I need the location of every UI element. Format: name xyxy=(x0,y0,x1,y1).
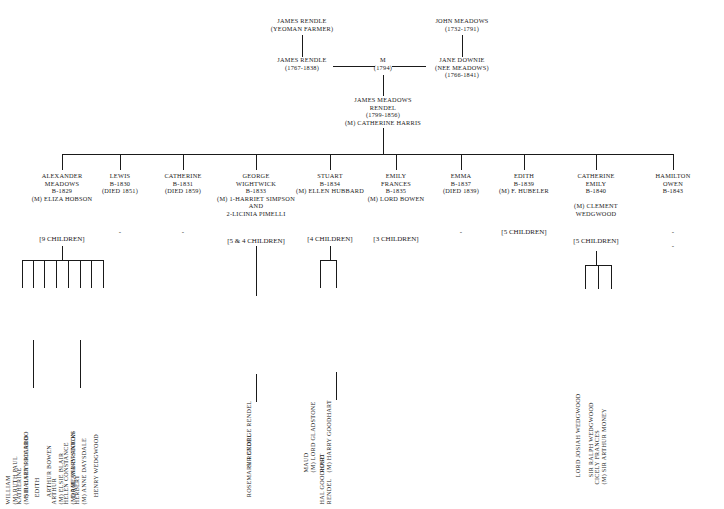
node-catherine-emily: CATHERINEEMILYB-1840 (M) CLEMENTWEDGWOOD xyxy=(574,172,618,218)
node-emma-line: EMMA xyxy=(443,172,479,180)
line-george-to-rosemary xyxy=(256,374,257,402)
node-stuart: STUARTB-1834(M) ELLEN HUBBARD xyxy=(296,172,364,195)
line-stuart-child-1 xyxy=(336,260,337,288)
node-jane-downie: JANE DOWNIE(NEE MEADOWS)(1766-1841) xyxy=(435,56,489,79)
sibling-bar-stuart xyxy=(320,260,336,261)
node-emily-frances-line: (M) LORD BOWEN xyxy=(368,195,425,203)
line-child-drop-2 xyxy=(183,154,184,170)
issue-label-catherine: - xyxy=(182,229,184,236)
node-stuart-line: (M) ELLEN HUBBARD xyxy=(296,187,364,195)
node-john-meadows-line: JOHN MEADOWS xyxy=(435,17,488,25)
line-marriage-right xyxy=(392,66,426,67)
node-catherine-line: CATHERINE xyxy=(164,172,201,180)
node-hamilton-owen-line: OWEN xyxy=(656,180,691,188)
line-marriage-left xyxy=(333,66,375,67)
line-stuart-child-0 xyxy=(320,260,321,288)
issue-label-catherine-emily: [5 CHILDREN] xyxy=(573,238,618,245)
line-wedgwood-down xyxy=(596,251,597,265)
node-james-rendle-yeoman-line: (YEOMAN FARMER) xyxy=(271,25,334,33)
line-child-drop-5 xyxy=(396,154,397,170)
line-wedgwood-child-2 xyxy=(611,265,612,289)
node-emma-line: (DIED 1839) xyxy=(443,187,479,195)
node-james-rendle-yeoman-line: JAMES RENDLE xyxy=(271,17,334,25)
node-emily-frances-line: FRANCES xyxy=(368,180,425,188)
node-alexander-meadows-line: B-1829 xyxy=(32,187,93,195)
node-emily-frances-line: B-1835 xyxy=(368,187,425,195)
node-hamilton-owen-line: B-1843 xyxy=(656,187,691,195)
label-dame-mary-stocks: DAME MARY STOCKS xyxy=(70,430,77,497)
node-george-wightwick-line: 2-LICINIA PIMELLI xyxy=(217,210,295,218)
node-catherine-emily-line: (M) CLEMENT xyxy=(574,202,618,210)
node-catherine-emily-line: WEDGWOOD xyxy=(574,210,618,218)
line-alexander-child-5 xyxy=(80,260,81,288)
issue-label-stuart: [4 CHILDREN] xyxy=(307,236,352,243)
node-lewis-line: B-1830 xyxy=(102,180,138,188)
line-george-down xyxy=(256,246,257,296)
label-edith-desc: EDITH xyxy=(34,477,41,497)
family-tree-diagram: JAMES RENDLE(YEOMAN FARMER)JOHN MEADOWS(… xyxy=(0,0,724,509)
label-cicely-frances-line: CICELY FRANCES xyxy=(593,408,600,484)
line-alexander-child-1 xyxy=(33,260,34,288)
line-alexander-child-7 xyxy=(103,260,104,288)
line-to-dame-mary-stocks xyxy=(80,340,81,388)
node-emily-frances-line: EMILY xyxy=(368,172,425,180)
line-jmr-down xyxy=(383,128,384,154)
node-jane-downie-line: (1766-1841) xyxy=(435,71,489,79)
node-catherine: CATHERINEB-1831(DIED 1859) xyxy=(164,172,201,195)
line-stuart-down xyxy=(330,246,331,260)
node-jane-downie-line: JANE DOWNIE xyxy=(435,56,489,64)
label-cicely-frances: CICELY FRANCES(M) SIR ARTHUR MONEY xyxy=(593,408,607,484)
line-alexander-child-3 xyxy=(56,260,57,288)
node-alexander-meadows-line: (M) ELIZA HOBSON xyxy=(32,195,93,203)
node-alexander-meadows-line: MEADOWS xyxy=(32,180,93,188)
node-alexander-meadows-line: ALEXANDER xyxy=(32,172,93,180)
node-edith-line: EDITH xyxy=(499,172,549,180)
label-helen-constance-line: HELEN CONSTANCE xyxy=(62,432,69,505)
node-john-meadows: JOHN MEADOWS(1732-1791) xyxy=(435,17,488,32)
label-katherine-line: KATHERINE xyxy=(15,435,22,504)
line-child-drop-7 xyxy=(524,154,525,170)
node-catherine-line: (DIED 1859) xyxy=(164,187,201,195)
issue-label-hamilton-owen: - xyxy=(672,229,674,236)
node-james-meadows-rendel: JAMES MEADOWSRENDEL(1799-1856)(M) CATHER… xyxy=(345,96,421,126)
node-james-meadows-rendel-line: JAMES MEADOWS xyxy=(345,96,421,104)
node-edith: EDITHB-1839(M) F. HUBELER xyxy=(499,172,549,195)
line-alexander-child-4 xyxy=(68,260,69,288)
line-child-drop-0 xyxy=(62,154,63,170)
label-arthur-elsie-line: ARTHUR xyxy=(50,453,57,505)
line-marriage-down xyxy=(383,75,384,96)
node-james-rendle-yeoman: JAMES RENDLE(YEOMAN FARMER) xyxy=(271,17,334,32)
node-george-wightwick-line: WIGHTWICK xyxy=(217,180,295,188)
label-edith-desc-line: EDITH xyxy=(34,477,41,497)
node-james-meadows-rendel-line: (1799-1856) xyxy=(345,111,421,119)
label-hal-goodhart-rendel-line: RENDEL xyxy=(326,453,333,504)
node-george-wightwick-line: (M) 1-HARRIET SIMPSON xyxy=(217,195,295,203)
issue-label-alexander-meadows: [9 CHILDREN] xyxy=(39,236,84,243)
node-stuart-line: STUART xyxy=(296,172,364,180)
line-yeoman-to-james xyxy=(302,35,303,57)
line-alexander-child-6 xyxy=(91,260,92,288)
node-catherine-line: B-1831 xyxy=(164,180,201,188)
node-george-wightwick-line: B-1833 xyxy=(217,187,295,195)
label-hal-goodhart-rendel-line: HAL GOODHART xyxy=(318,453,325,504)
label-lord-josiah-wedgwood-line: LORD JOSIAH WEDGWOOD xyxy=(575,393,582,477)
node-james-rendle-line: JAMES RENDLE xyxy=(277,56,326,64)
node-catherine-emily-line: EMILY xyxy=(574,180,618,188)
node-edith-line: (M) F. HUBELER xyxy=(499,187,549,195)
line-alexander-child-0 xyxy=(22,260,23,288)
node-george-wightwick-line: AND xyxy=(217,202,295,210)
node-hamilton-owen: HAMILTONOWENB-1843 xyxy=(656,172,691,195)
issue-label-emma: - xyxy=(460,229,462,236)
line-alexander-child-2 xyxy=(44,260,45,288)
node-emma-line: B-1837 xyxy=(443,180,479,188)
label-rosemary-rendel: ROSEMARY RENDEL xyxy=(246,434,253,497)
label-herbert-line: (M) ANNE DAYSDALE xyxy=(81,438,88,505)
sibling-bar-children xyxy=(62,154,673,155)
node-jane-downie-line: (NEE MEADOWS) xyxy=(435,64,489,72)
label-hal-goodhart-rendel: HAL GOODHARTRENDEL xyxy=(318,453,332,504)
node-emily-frances: EMILYFRANCESB-1835(M) LORD BOWEN xyxy=(368,172,425,202)
label-rosemary-rendel-line: ROSEMARY RENDEL xyxy=(246,434,253,497)
node-catherine-emily-line: CATHERINE xyxy=(574,172,618,180)
node-james-meadows-rendel-line: RENDEL xyxy=(345,104,421,112)
issue-label-george-wightwick: [5 & 4 CHILDREN] xyxy=(227,238,285,245)
